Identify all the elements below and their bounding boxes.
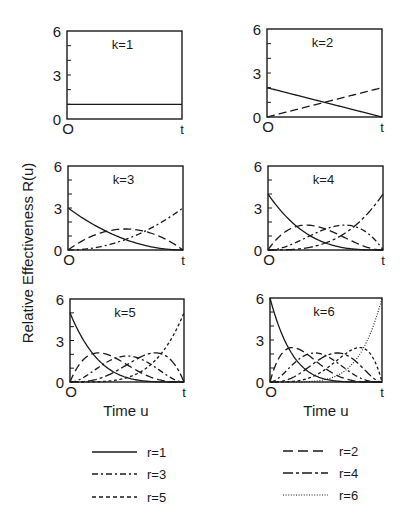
- curve-r2: [270, 348, 382, 382]
- legend-item-r4: r=4: [283, 466, 358, 481]
- legend-label: r=1: [147, 445, 166, 460]
- figure: Relative Effectiveness R(u) Time u Time …: [0, 0, 404, 524]
- x-tick-label-start: O: [263, 251, 275, 268]
- y-tick-label: 0: [53, 111, 61, 128]
- y-tick-label: 6: [254, 158, 262, 175]
- legend-label: r=5: [147, 490, 166, 505]
- y-tick-label: 6: [53, 23, 61, 40]
- curve-r1: [70, 313, 184, 382]
- x-axis-label-left: Time u: [103, 402, 148, 419]
- x-tick-label-end: t: [380, 120, 384, 135]
- y-tick-label: 6: [54, 158, 62, 175]
- y-tick-label: 0: [253, 109, 261, 126]
- y-tick-label: 0: [256, 374, 264, 391]
- y-tick-label: 6: [56, 291, 64, 308]
- legend-item-r3: r=3: [92, 467, 166, 482]
- legend-item-r6: r=6: [283, 488, 358, 503]
- panel-k2: 630Otk=2: [253, 21, 385, 135]
- y-tick-label: 3: [254, 200, 262, 217]
- panel-k5: 630Otk=5: [56, 291, 187, 400]
- x-tick-label-start: O: [62, 120, 74, 137]
- panel-k1: 630Otk=1: [53, 23, 185, 137]
- legend-label: r=3: [147, 467, 166, 482]
- panel-k6: 630Otk=6: [256, 290, 385, 400]
- legend-label: r=4: [339, 466, 358, 481]
- x-tick-label-start: O: [65, 383, 77, 400]
- panel-label: k=6: [313, 304, 334, 319]
- y-tick-label: 0: [254, 242, 262, 259]
- panels: 630Otk=1630Otk=2630Otk=3630Otk=4630Otk=5…: [53, 21, 386, 400]
- legend-item-r2: r=2: [283, 444, 358, 459]
- y-tick-label: 6: [253, 21, 261, 38]
- legend-item-r5: r=5: [92, 490, 166, 505]
- y-tick-label: 3: [256, 332, 264, 349]
- y-tick-label: 0: [56, 374, 64, 391]
- curve-r4: [270, 353, 382, 382]
- legend-label: r=6: [339, 488, 358, 503]
- y-tick-label: 0: [54, 242, 62, 259]
- curve-r3: [270, 353, 382, 382]
- curve-r5: [70, 313, 184, 382]
- x-tick-label-end: t: [380, 385, 384, 400]
- panel-label: k=2: [312, 35, 333, 50]
- y-tick-label: 6: [256, 290, 264, 307]
- panel-label: k=1: [112, 37, 133, 52]
- x-tick-label-start: O: [262, 118, 274, 135]
- panel-label: k=3: [113, 172, 134, 187]
- x-tick-label-start: O: [63, 251, 75, 268]
- curve-r1: [268, 194, 383, 250]
- legend-item-r1: r=1: [92, 445, 166, 460]
- x-tick-label-end: t: [181, 253, 185, 268]
- y-tick-label: 3: [56, 333, 64, 350]
- y-axis-label: Relative Effectiveness R(u): [19, 163, 36, 344]
- x-tick-label-start: O: [265, 383, 277, 400]
- y-tick-label: 3: [54, 200, 62, 217]
- x-axis-label-right: Time u: [303, 402, 348, 419]
- curve-r4: [268, 194, 383, 250]
- panel-k3: 630Otk=3: [54, 158, 186, 268]
- y-tick-label: 3: [53, 67, 61, 84]
- x-tick-label-end: t: [381, 253, 385, 268]
- panel-k4: 630Otk=4: [254, 158, 386, 268]
- legend-label: r=2: [339, 444, 358, 459]
- x-tick-label-end: t: [180, 122, 184, 137]
- legend: r=1 r=2 r=3 r=4 r=5 r=6: [92, 444, 358, 505]
- panel-label: k=4: [313, 172, 334, 187]
- y-tick-label: 3: [253, 65, 261, 82]
- panel-label: k=5: [114, 305, 135, 320]
- curve-r5: [270, 348, 382, 382]
- x-tick-label-end: t: [182, 385, 186, 400]
